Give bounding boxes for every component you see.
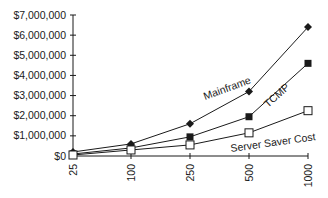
square-marker [187, 133, 194, 140]
open-square-marker [69, 151, 77, 159]
x-tick-label: 500 [243, 164, 255, 182]
line-chart: $0$1,000,000$2,000,000$3,000,000$4,000,0… [0, 0, 328, 198]
y-tick-label: $6,000,000 [13, 29, 66, 41]
diamond-marker [186, 120, 194, 128]
y-tick-label: $4,000,000 [13, 69, 66, 81]
series-label: Mainframe [202, 74, 253, 102]
open-square-marker [245, 129, 253, 137]
open-square-marker [186, 141, 194, 149]
y-tick-label: $2,000,000 [13, 109, 66, 121]
y-tick-label: $7,000,000 [13, 9, 66, 21]
x-tick-label: 25 [67, 164, 79, 176]
y-tick-label: $3,000,000 [13, 89, 66, 101]
square-marker [305, 60, 312, 67]
x-tick-label: 250 [184, 164, 196, 182]
series-server-saver-cost [69, 107, 312, 159]
open-square-marker [304, 107, 312, 115]
y-tick-label: $1,000,000 [13, 129, 66, 141]
y-tick-label: $0 [54, 150, 66, 162]
series-label: TCMP [261, 81, 291, 110]
open-square-marker [127, 146, 135, 154]
x-tick-label: 1000 [302, 164, 314, 188]
x-tick-label: 100 [125, 164, 137, 182]
y-tick-label: $5,000,000 [13, 49, 66, 61]
square-marker [246, 113, 253, 120]
